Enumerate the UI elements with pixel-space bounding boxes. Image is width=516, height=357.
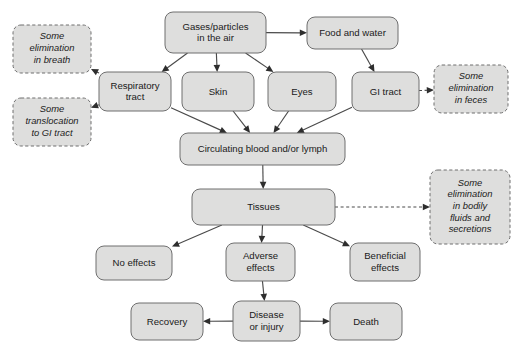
node-eyes[interactable]: Eyes xyxy=(268,72,336,111)
node-gases[interactable]: Gases/particlesin the air xyxy=(165,12,266,53)
node-food[interactable]: Food and water xyxy=(307,17,398,49)
node-skin[interactable]: Skin xyxy=(182,72,254,111)
edge-line xyxy=(362,49,372,66)
edge-respiratory-to-circulating xyxy=(171,108,227,133)
edge-line xyxy=(216,53,217,66)
node-label-food: Food and water xyxy=(319,27,386,38)
node-tissues[interactable]: Tissues xyxy=(192,189,335,225)
edge-skin-to-circulating xyxy=(233,111,250,133)
edge-respiratory-to-translocation xyxy=(91,102,99,108)
node-label-adverse: Adverseeffects xyxy=(243,250,278,273)
node-label-death: Death xyxy=(353,315,379,326)
edge-line xyxy=(233,111,246,128)
node-label-tissues: Tissues xyxy=(247,201,280,212)
edge-respiratory-to-breath xyxy=(91,69,99,75)
arrowhead-icon xyxy=(91,102,99,108)
edge-gases-to-food xyxy=(266,30,307,37)
edge-tissues-to-noeffects xyxy=(172,225,222,247)
node-disease[interactable]: Diseaseor injury xyxy=(233,301,300,341)
edge-line xyxy=(178,225,222,244)
edge-tissues-to-adverse xyxy=(259,225,266,243)
edge-tissues-to-beneficial xyxy=(303,225,350,246)
edge-disease-to-recovery xyxy=(203,318,233,325)
node-recovery[interactable]: Recovery xyxy=(131,303,203,340)
flowchart-canvas: Gases/particlesin the airFood and waterR… xyxy=(0,0,516,357)
edge-line xyxy=(303,225,344,244)
edge-line xyxy=(262,225,263,237)
node-gitract[interactable]: GI tract xyxy=(352,72,419,111)
arrowhead-icon xyxy=(243,125,250,133)
edge-line xyxy=(262,281,263,295)
node-breath[interactable]: Someeliminationin breath xyxy=(13,25,91,73)
edge-line xyxy=(167,53,188,68)
arrowhead-icon xyxy=(300,30,307,37)
edge-eyes-to-circulating xyxy=(273,111,288,133)
node-noeffects[interactable]: No effects xyxy=(96,246,172,280)
arrowhead-icon xyxy=(203,318,210,325)
edge-disease-to-death xyxy=(300,318,330,325)
arrowhead-icon xyxy=(162,65,170,72)
flowchart-svg: Gases/particlesin the airFood and waterR… xyxy=(0,0,516,357)
node-beneficial[interactable]: Beneficialeffects xyxy=(350,243,420,281)
edge-line xyxy=(246,53,269,68)
node-label-noeffects: No effects xyxy=(112,257,155,268)
node-respiratory[interactable]: Respiratorytract xyxy=(99,72,171,111)
node-label-gitract: GI tract xyxy=(370,85,402,96)
edge-adverse-to-disease xyxy=(260,281,267,301)
arrowhead-icon xyxy=(260,294,267,301)
arrowhead-icon xyxy=(273,125,280,133)
arrowhead-icon xyxy=(266,65,274,72)
arrowhead-icon xyxy=(427,87,434,94)
arrowhead-icon xyxy=(323,318,330,325)
edge-gases-to-eyes xyxy=(246,53,274,72)
node-bodily[interactable]: Someeliminationin bodilyfluids andsecret… xyxy=(430,170,510,244)
node-label-disease: Diseaseor injury xyxy=(249,309,284,332)
node-label-eyes: Eyes xyxy=(291,85,313,96)
edge-food-to-gitract xyxy=(362,49,375,72)
node-adverse[interactable]: Adverseeffects xyxy=(226,243,295,281)
edge-line xyxy=(277,111,288,128)
node-translocation[interactable]: Sometranslocationto GI tract xyxy=(13,98,91,146)
arrowhead-icon xyxy=(260,182,267,189)
node-label-skin: Skin xyxy=(209,85,228,96)
edge-circulating-to-tissues xyxy=(260,165,267,189)
node-feces[interactable]: Someeliminationin feces xyxy=(434,65,508,113)
edge-gitract-to-feces xyxy=(419,87,434,94)
edge-gases-to-respiratory xyxy=(162,53,188,72)
node-label-recovery: Recovery xyxy=(147,315,188,326)
node-label-circulating: Circulating blood and/or lymph xyxy=(198,143,328,154)
node-circulating[interactable]: Circulating blood and/or lymph xyxy=(180,133,345,165)
edge-tissues-to-bodily xyxy=(335,204,430,211)
arrowhead-icon xyxy=(423,204,430,211)
arrowhead-icon xyxy=(259,236,266,243)
node-death[interactable]: Death xyxy=(330,303,402,340)
edge-gases-to-skin xyxy=(214,53,221,72)
node-layer: Gases/particlesin the airFood and waterR… xyxy=(13,12,510,341)
arrowhead-icon xyxy=(214,65,221,72)
